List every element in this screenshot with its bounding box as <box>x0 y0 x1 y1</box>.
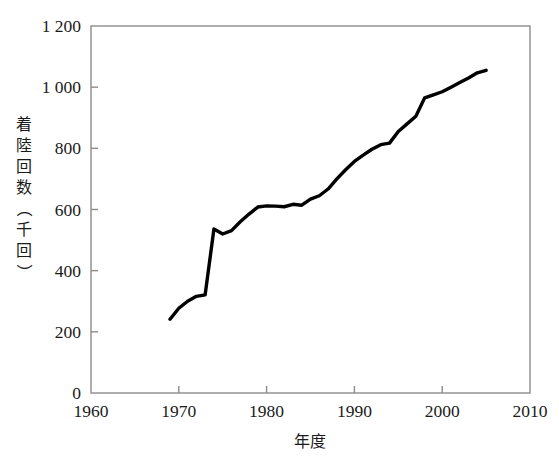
y-tick-label: 800 <box>55 138 82 158</box>
chart-figure: 02004006008001 0001 200 1960197019801990… <box>0 0 559 467</box>
y-axis-title-char: 回 <box>16 241 32 260</box>
y-axis-tick-labels: 02004006008001 0001 200 <box>42 16 82 403</box>
y-axis-title-char: 回 <box>16 157 32 176</box>
x-axis-tick-labels: 196019701980199020002010 <box>74 401 548 421</box>
y-axis-title: 着陸回数（千回） <box>15 115 34 280</box>
y-axis-title-char: ） <box>15 264 34 280</box>
x-axis-title: 年度 <box>294 432 326 451</box>
x-tick-label: 1970 <box>161 401 196 421</box>
line-chart: 02004006008001 0001 200 1960197019801990… <box>0 0 559 467</box>
x-tick-label: 1960 <box>74 401 109 421</box>
x-tick-label: 1990 <box>337 401 372 421</box>
y-tick-label: 400 <box>55 261 82 281</box>
y-tick-label: 1 000 <box>42 77 82 97</box>
y-axis-title-char: 陸 <box>16 136 32 155</box>
y-tick-label: 600 <box>55 200 82 220</box>
x-tick-label: 2010 <box>513 401 548 421</box>
x-tick-label: 2000 <box>425 401 460 421</box>
y-tick-label: 200 <box>55 322 82 342</box>
y-axis-title-char: （ <box>15 201 34 217</box>
y-tick-label: 1 200 <box>42 16 82 36</box>
y-axis-title-char: 着 <box>16 115 32 134</box>
y-axis-title-char: 千 <box>16 220 32 239</box>
y-tick-label: 0 <box>72 383 81 403</box>
y-axis-title-char: 数 <box>16 178 32 197</box>
x-tick-label: 1980 <box>249 401 284 421</box>
